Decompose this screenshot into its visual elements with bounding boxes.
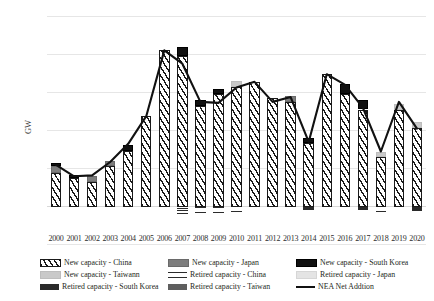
legend-item[interactable]: New capacity - Taiwann xyxy=(40,270,168,280)
legend-label: New capacity - Taiwann xyxy=(64,270,140,280)
legend-item[interactable]: Retired capacity - South Korea xyxy=(40,282,168,292)
legend-swatch-icon xyxy=(168,259,189,267)
legend-label: Retired capacity - China xyxy=(190,270,266,280)
chart-root: 100 80 60 40 20 0 -20 GW 200020012002200… xyxy=(0,0,434,301)
legend-swatch-icon xyxy=(296,259,317,267)
legend-item[interactable]: New capacity - South Korea xyxy=(296,258,430,268)
x-tick-2020: 2020 xyxy=(402,234,432,243)
y-axis-label: GW xyxy=(23,120,33,134)
legend-label: New capacity - South Korea xyxy=(320,258,408,268)
legend-label: Retired capacity - South Korea xyxy=(62,282,159,292)
legend-label: New capacity - China xyxy=(64,258,132,268)
legend-swatch-icon xyxy=(40,259,61,267)
legend-label: Retired capacity - Taiwan xyxy=(190,282,270,292)
legend-item[interactable]: NEA Net Addtion xyxy=(296,282,430,292)
nea-net-addition-line xyxy=(47,16,426,245)
legend-label: Retired capacity - Japan xyxy=(320,270,395,280)
chart-legend: New capacity - ChinaNew capacity - Japan… xyxy=(40,258,430,292)
legend-item[interactable]: New capacity - Japan xyxy=(168,258,296,268)
legend-swatch-icon xyxy=(40,271,61,279)
legend-swatch-icon xyxy=(168,284,187,290)
legend-item[interactable]: New capacity - China xyxy=(40,258,168,268)
legend-swatch-icon xyxy=(296,286,315,288)
legend-label: NEA Net Addtion xyxy=(318,282,374,292)
legend-swatch-icon xyxy=(40,284,59,290)
legend-label: New capacity - Japan xyxy=(192,258,259,268)
legend-swatch-icon xyxy=(168,272,187,278)
legend-item[interactable]: Retired capacity - Taiwan xyxy=(168,282,296,292)
plot-area: GW 2000200120022003200420052006200720082… xyxy=(47,16,426,245)
legend-item[interactable]: Retired capacity - Japan xyxy=(296,270,430,280)
legend-item[interactable]: Retired capacity - China xyxy=(168,270,296,280)
legend-swatch-icon xyxy=(296,271,317,279)
